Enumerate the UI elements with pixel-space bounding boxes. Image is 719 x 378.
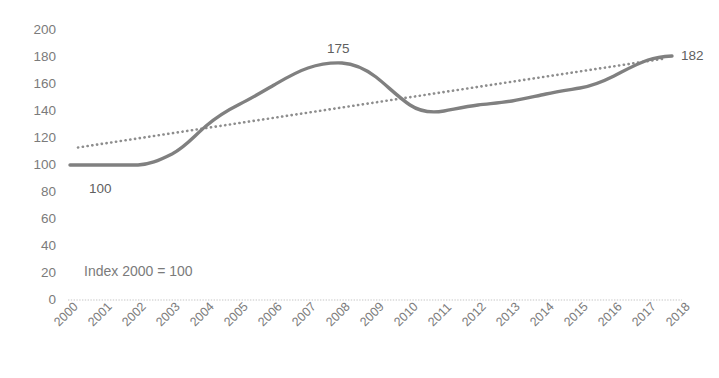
x-axis-tick-label: 2006 (256, 300, 285, 329)
x-axis-tick-label: 2018 (664, 300, 693, 329)
x-axis-tick-label: 2008 (324, 300, 353, 329)
line-chart: 200 180 160 140 120 100 80 60 40 20 0 10… (0, 0, 719, 378)
x-axis-tick-label: 2004 (188, 300, 217, 329)
x-axis-tick-label: 2017 (630, 300, 659, 329)
x-axis-tick-label: 2011 (426, 301, 454, 329)
x-axis-tick-label: 2013 (494, 300, 523, 329)
x-axis-tick-label: 2010 (392, 300, 421, 329)
x-axis-tick-label: 2001 (86, 300, 115, 329)
x-axis-tick-label: 2009 (358, 300, 387, 329)
x-axis-tick-label: 2012 (460, 300, 489, 329)
x-axis-tick-label: 2005 (222, 300, 251, 329)
x-axis-tick-label: 2014 (528, 300, 557, 329)
x-axis-tick-label: 2002 (120, 300, 149, 329)
x-axis-tick-label: 2000 (52, 300, 81, 329)
x-axis-tick-label: 2015 (562, 300, 591, 329)
x-axis-tick-label: 2016 (596, 300, 625, 329)
x-axis-tick-label: 2007 (290, 300, 319, 329)
x-axis-tick-label: 2003 (154, 300, 183, 329)
x-axis: 2000 2001 2002 2003 2004 2005 2006 2007 … (0, 0, 719, 378)
